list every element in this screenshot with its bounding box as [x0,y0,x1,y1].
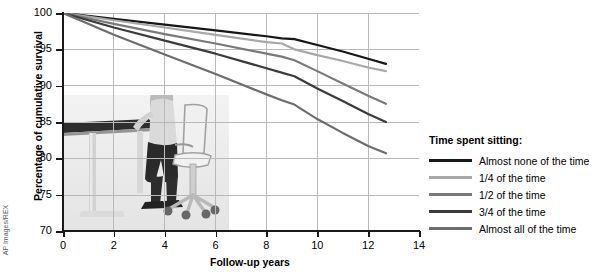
legend-item[interactable]: 3/4 of the time [429,203,594,220]
legend-item[interactable]: Almost none of the time [429,152,594,169]
y-tick [56,13,63,15]
x-tick-label: 0 [51,240,75,251]
x-tick [114,231,116,237]
y-tick [56,195,63,197]
legend-label: Almost all of the time [479,223,576,235]
legend-label: Almost none of the time [479,155,589,167]
x-tick-label: 14 [407,240,431,251]
y-tick-label: 70 [18,225,52,236]
x-tick [63,231,65,237]
y-tick [56,122,63,124]
x-tick [419,231,421,237]
legend: Time spent sitting: Almost none of the t… [429,134,594,237]
x-tick [216,231,218,237]
legend-swatch [429,176,472,179]
series-line [63,13,386,122]
y-tick-label: 80 [18,152,52,163]
y-tick-label: 90 [18,80,52,91]
legend-label: 1/4 of the time [479,172,546,184]
y-tick-label: 95 [18,43,52,54]
legend-item[interactable]: 1/2 of the time [429,186,594,203]
x-tick [165,231,167,237]
legend-label: 3/4 of the time [479,206,546,218]
x-axis-line [62,230,420,232]
y-tick-label: 100 [18,7,52,18]
y-tick [56,231,63,233]
legend-rows: Almost none of the time1/4 of the time1/… [429,152,594,237]
y-tick-label: 85 [18,116,52,127]
x-axis-title: Follow-up years [150,256,350,268]
y-tick-label: 75 [18,189,52,200]
series-line [63,13,386,153]
y-tick [56,86,63,88]
legend-item[interactable]: 1/4 of the time [429,169,594,186]
x-tick-label: 2 [102,240,126,251]
x-tick [368,231,370,237]
legend-item[interactable]: Almost all of the time [429,220,594,237]
x-tick [317,231,319,237]
x-tick-label: 10 [305,240,329,251]
legend-swatch [429,227,472,230]
legend-label: 1/2 of the time [479,189,546,201]
x-tick [266,231,268,237]
legend-swatch [429,193,472,196]
y-tick [56,49,63,51]
x-tick-label: 6 [204,240,228,251]
series-line [63,13,386,71]
legend-swatch [429,159,472,162]
legend-swatch [429,210,472,213]
x-tick-label: 4 [153,240,177,251]
y-tick [56,158,63,160]
plot-area [63,13,419,231]
legend-title: Time spent sitting: [429,134,594,146]
x-tick-label: 8 [254,240,278,251]
x-tick-label: 12 [356,240,380,251]
series-layer [63,13,419,231]
